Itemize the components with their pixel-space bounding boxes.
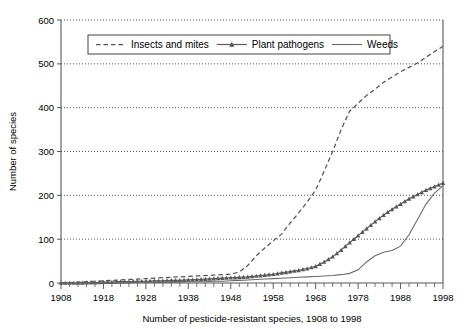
- series-marker-plant-pathogens: [322, 260, 326, 264]
- y-tick-label-400: 400: [38, 102, 54, 113]
- x-tick-label-1968: 1968: [305, 292, 326, 303]
- series-marker-plant-pathogens: [441, 181, 445, 185]
- x-tick-label-1918: 1918: [93, 292, 114, 303]
- pesticide-resistance-line-chart: 0100200300400500600 19081918192819381948…: [0, 0, 470, 329]
- legend-label-insects-and-mites: Insects and mites: [131, 39, 209, 50]
- series-line-plant-pathogens: [61, 183, 443, 283]
- x-tick-label-1928: 1928: [135, 292, 156, 303]
- tickmarks-group: [57, 20, 443, 289]
- x-tick-label-1948: 1948: [220, 292, 241, 303]
- y-tick-label-100: 100: [38, 234, 54, 245]
- series-marker-plant-pathogens: [403, 199, 407, 203]
- series-marker-plant-pathogens: [390, 207, 394, 211]
- y-tick-label-500: 500: [38, 58, 54, 69]
- chart-legend: Insects and mitesPlant pathogensWeeds: [88, 35, 398, 54]
- y-tick-label-0: 0: [49, 278, 54, 289]
- legend-label-weeds: Weeds: [367, 39, 398, 50]
- x-axis-title: Number of pesticide-resistant species, 1…: [142, 313, 361, 324]
- series-marker-plant-pathogens: [398, 202, 402, 206]
- data-series-group: [59, 46, 445, 285]
- x-tick-label-1998: 1998: [432, 292, 453, 303]
- x-tick-labels-group: 1908191819281938194819581968197819881998: [50, 292, 453, 303]
- x-tick-label-1938: 1938: [178, 292, 199, 303]
- x-tick-label-1908: 1908: [50, 292, 71, 303]
- y-tick-label-300: 300: [38, 146, 54, 157]
- x-tick-label-1958: 1958: [263, 292, 284, 303]
- series-marker-plant-pathogens: [326, 257, 330, 261]
- series-line-insects-and-mites: [61, 46, 443, 283]
- chart-plot-area: 0100200300400500600 19081918192819381948…: [0, 0, 470, 329]
- legend-label-plant-pathogens: Plant pathogens: [252, 39, 324, 50]
- x-tick-label-1988: 1988: [390, 292, 411, 303]
- series-line-weeds: [61, 186, 443, 283]
- y-tick-labels-group: 0100200300400500600: [38, 15, 54, 289]
- y-tick-label-600: 600: [38, 15, 54, 26]
- series-marker-plant-pathogens: [394, 204, 398, 208]
- x-tick-label-1978: 1978: [348, 292, 369, 303]
- y-tick-label-200: 200: [38, 190, 54, 201]
- y-axis-title: Number of species: [7, 112, 18, 191]
